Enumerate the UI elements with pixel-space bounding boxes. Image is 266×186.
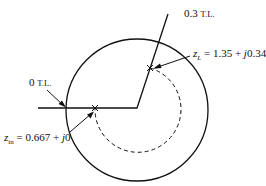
wtg-0-label: 0 T.L.: [29, 77, 51, 88]
zl-label: zL = 1.35 + j0.34: [193, 48, 266, 62]
zl-arrowhead-icon: [153, 64, 162, 69]
zin-eq: = 0.667 +: [14, 131, 62, 143]
zin-label: zin = 0.667 + j0: [4, 132, 70, 146]
smith-chart-diagram: [0, 0, 266, 186]
zl-val: 0.34: [247, 47, 266, 59]
radial-lines: [38, 14, 168, 108]
wtg-0.3-label: 0.3 T.L.: [184, 8, 215, 19]
wtg-value: 0.3: [184, 7, 198, 19]
zin-val: 0: [65, 131, 71, 143]
wtg-value: 0: [29, 76, 35, 88]
wtg-unit: T.L.: [37, 78, 51, 88]
zin-arrowhead-icon: [87, 112, 94, 119]
unit-circle: [66, 39, 208, 181]
wtg-unit: T.L.: [201, 9, 215, 19]
zl-eq: = 1.35 +: [201, 47, 244, 59]
swr-dashed-arc: [95, 68, 181, 152]
